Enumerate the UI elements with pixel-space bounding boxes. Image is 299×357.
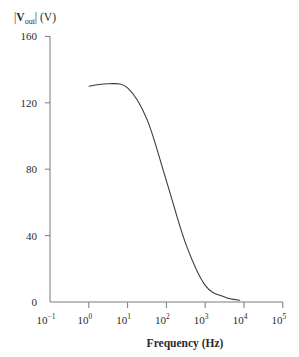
x-axis-title: Frequency (Hz) bbox=[147, 337, 224, 350]
y-tick-label: 80 bbox=[26, 163, 38, 175]
x-tick-label: 10−1 bbox=[37, 312, 56, 326]
bode-magnitude-chart: |Vout| (V) 04080120160 10−11001011021031… bbox=[0, 0, 299, 357]
x-tick-label: 101 bbox=[116, 312, 131, 326]
x-axis-ticks: 10−1100101102103104105 bbox=[37, 302, 287, 326]
y-tick-label: 40 bbox=[26, 230, 38, 242]
axes bbox=[50, 36, 283, 302]
x-tick-label: 104 bbox=[233, 312, 248, 326]
x-tick-label: 100 bbox=[77, 312, 92, 326]
y-tick-label: 0 bbox=[32, 296, 38, 308]
magnitude-curve bbox=[89, 84, 240, 301]
y-axis-title: |Vout| (V) bbox=[14, 11, 56, 26]
x-tick-label: 105 bbox=[271, 312, 286, 326]
y-tick-label: 160 bbox=[21, 30, 38, 42]
y-axis-ticks: 04080120160 bbox=[21, 30, 51, 308]
x-tick-label: 103 bbox=[194, 312, 209, 326]
x-tick-label: 102 bbox=[155, 312, 170, 326]
y-tick-label: 120 bbox=[21, 97, 38, 109]
